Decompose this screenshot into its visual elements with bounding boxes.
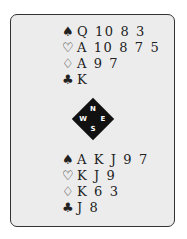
- compass-west-label: W: [78, 115, 88, 123]
- compass-icon: N W E S: [72, 98, 114, 140]
- compass-north-label: N: [88, 105, 98, 113]
- south-diamonds-cards: K 6 3: [77, 184, 120, 200]
- north-diamonds-cards: A 9 7: [77, 56, 119, 72]
- club-icon: ♣: [62, 200, 77, 216]
- diamond-icon: ♢: [62, 184, 77, 200]
- north-hearts-row: ♡ A 10 8 7 5: [62, 40, 160, 56]
- south-hearts-row: ♡ K J 9: [62, 168, 149, 184]
- heart-icon: ♡: [62, 40, 77, 56]
- bridge-deal-card: ♠ Q 10 8 3 ♡ A 10 8 7 5 ♢ A 9 7 ♣ K N W …: [10, 14, 175, 227]
- club-icon: ♣: [62, 72, 77, 88]
- south-spades-row: ♠ A K J 9 7: [62, 152, 149, 168]
- south-clubs-cards: J 8: [77, 200, 99, 216]
- compass-east-label: E: [98, 115, 108, 123]
- south-spades-cards: A K J 9 7: [77, 152, 149, 168]
- compass-south-label: S: [88, 125, 98, 133]
- north-clubs-row: ♣ K: [62, 72, 160, 88]
- spade-icon: ♠: [62, 152, 77, 168]
- heart-icon: ♡: [62, 168, 77, 184]
- south-diamonds-row: ♢ K 6 3: [62, 184, 149, 200]
- north-hand: ♠ Q 10 8 3 ♡ A 10 8 7 5 ♢ A 9 7 ♣ K: [62, 24, 160, 88]
- spade-icon: ♠: [62, 24, 77, 40]
- north-spades-cards: Q 10 8 3: [77, 24, 146, 40]
- north-clubs-cards: K: [77, 72, 88, 88]
- north-diamonds-row: ♢ A 9 7: [62, 56, 160, 72]
- south-hearts-cards: K J 9: [77, 168, 116, 184]
- diamond-icon: ♢: [62, 56, 77, 72]
- south-hand: ♠ A K J 9 7 ♡ K J 9 ♢ K 6 3 ♣ J 8: [62, 152, 149, 216]
- north-spades-row: ♠ Q 10 8 3: [62, 24, 160, 40]
- north-hearts-cards: A 10 8 7 5: [77, 40, 160, 56]
- south-clubs-row: ♣ J 8: [62, 200, 149, 216]
